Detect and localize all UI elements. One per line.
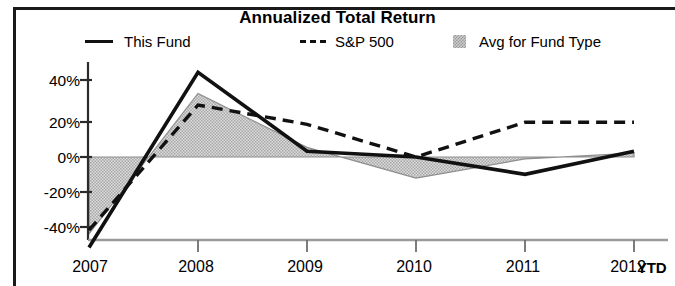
chart-plot-area <box>0 0 675 286</box>
x-tick-marks <box>198 240 634 252</box>
chart-figure: Annualized Total Return This Fund S&P 50… <box>0 0 675 286</box>
